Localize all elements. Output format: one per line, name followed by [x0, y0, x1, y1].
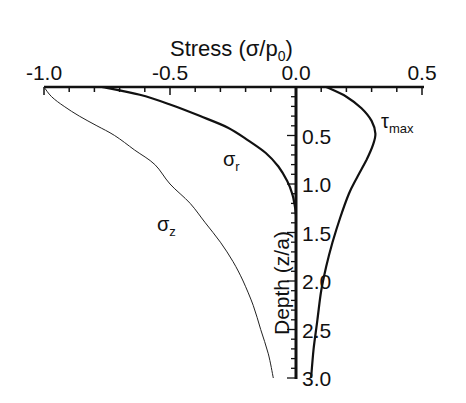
y-tick-label: 3.0: [302, 367, 331, 390]
y-axis-tick-labels: 0.51.01.52.02.53.0: [302, 125, 331, 391]
x-tick-label: -1.0: [26, 61, 62, 84]
y-tick-label: 2.0: [302, 270, 331, 293]
x-tick-label: 0.5: [407, 61, 436, 84]
x-tick-label: 0.0: [281, 61, 310, 84]
x-axis-title: Stress (σ/p0): [170, 36, 293, 64]
series-sigma-r-line: [102, 87, 296, 215]
y-tick-label: 1.5: [302, 222, 331, 245]
label-sigma-z: σz: [157, 213, 176, 239]
stress-depth-chart: Stress (σ/p0) -1.0-0.50.00.5 0.51.01.52.…: [0, 0, 466, 403]
x-tick-label: -0.5: [152, 61, 188, 84]
y-tick-label: 0.5: [302, 125, 331, 148]
x-axis-tick-labels: -1.0-0.50.00.5: [26, 61, 437, 84]
y-axis-title: Depth (z/a): [270, 231, 293, 335]
label-sigma-r: σr: [223, 148, 240, 174]
y-tick-label: 1.0: [302, 173, 331, 196]
label-tau-max: τmax: [381, 110, 414, 136]
